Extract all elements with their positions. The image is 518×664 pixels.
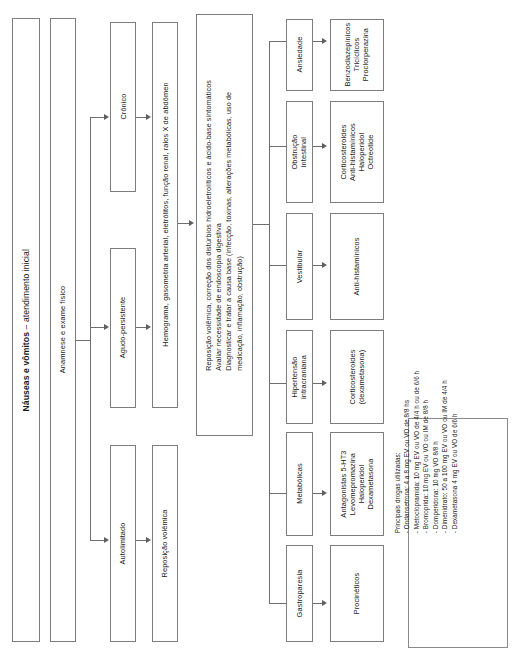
treatment-label-corticosteroides-dexametasona: Corticosteroides (dexametasona) <box>348 350 366 405</box>
connector-anamnese-trunk <box>90 117 91 540</box>
connector-to-gastroparesia <box>269 603 286 604</box>
management-box: Reposição volêmica, correção dos distúrb… <box>196 14 253 436</box>
branch-label-agudo-persistente: Agudo-persistente <box>118 297 127 359</box>
flowchart-canvas: Náuseas e vômitos – atendimento inicial … <box>0 0 518 664</box>
cause-box-vestibular: Vestibular <box>286 213 313 320</box>
cause-box-ansiedade: Ansiedade <box>286 19 313 91</box>
connector-to-ansiedade <box>269 41 286 42</box>
treatment-label-procineticos: Procinéticos <box>352 573 361 614</box>
treatment-label-benzodiazepinicos: Benzodiazepínicos Tricíclicos Proclorper… <box>343 23 370 87</box>
arrowhead-exams-from-agudo <box>146 324 151 330</box>
cause-box-metabolicas: Metabólicas <box>286 432 313 536</box>
arrowhead-cronico <box>104 114 109 120</box>
treatment-label-corticosteroides-anti-histaminicos: Corticosteroides Anti-histamínicos Halop… <box>339 123 375 181</box>
branch-label-autolimitado: Autolimitado <box>118 523 127 565</box>
arrowhead-anti-histaminicos <box>322 262 327 268</box>
treatment-box-corticosteroides-dexametasona: Corticosteroides (dexametasona) <box>330 330 384 424</box>
drug-legend-box: Principais drogas utilizadas: - Ondanset… <box>408 418 508 648</box>
connector-management-out <box>253 224 269 225</box>
anamnese-label: Anamnese e exame físico <box>58 286 67 373</box>
anamnese-box: Anamnese e exame físico <box>50 18 76 642</box>
arrowhead-antagonistas <box>322 490 327 496</box>
exams-box: Hemograma, gasometria arterial, eletróli… <box>152 22 178 408</box>
cause-box-hipertensao-intracraniana: Hipertensão intracraniana <box>286 330 313 424</box>
connector-causes-trunk <box>269 41 270 603</box>
title-text: Náuseas e vômitos – atendimento inicial <box>21 249 31 412</box>
treatment-box-corticosteroides-anti-histaminicos: Corticosteroides Anti-histamínicos Halop… <box>330 101 384 203</box>
arrowhead-management <box>189 220 194 226</box>
arrowhead-reposicao <box>146 537 151 543</box>
treatment-box-reposicao-volemica: Reposição volêmica <box>152 445 178 642</box>
arrowhead-exams-from-cronico <box>146 114 151 120</box>
cause-label-metabolicas: Metabólicas <box>295 464 304 505</box>
cause-label-ansiedade: Ansiedade <box>295 37 304 73</box>
management-text: Reposição volêmica, correção dos distúrb… <box>204 80 245 371</box>
connector-to-vestibular <box>269 265 286 266</box>
arrowhead-agudo <box>104 324 109 330</box>
drug-legend-text: Principais drogas utilizadas: - Ondanset… <box>393 371 459 533</box>
branch-box-cronico: Crônico <box>110 22 136 192</box>
exams-label: Hemograma, gasometria arterial, eletróli… <box>160 83 169 347</box>
cause-label-gastroparesia: Gastroparesia <box>295 570 304 618</box>
cause-label-hipertensao-intracraniana: Hipertensão intracraniana <box>290 355 308 399</box>
connector-to-hipertensao <box>269 383 286 384</box>
title-bold: Náuseas e vômitos <box>21 332 31 412</box>
arrowhead-autolimitado <box>104 537 109 543</box>
connector-anamnese-out <box>76 340 90 341</box>
connector-to-autolimitado <box>90 540 104 541</box>
arrowhead-corticosteroides-dexa <box>322 380 327 386</box>
branch-box-autolimitado: Autolimitado <box>110 445 136 642</box>
arrowhead-benzodiazepinicos <box>322 38 327 44</box>
cause-box-gastroparesia: Gastroparesia <box>286 545 313 642</box>
connector-to-cronico <box>90 117 104 118</box>
treatment-label-antagonistas-5ht3: Antagonistas 5-HT3 Levomepromazina Halop… <box>339 450 375 517</box>
treatment-box-anti-histaminicos: Anti-histamínicos <box>330 213 384 320</box>
branch-box-agudo-persistente: Agudo-persistente <box>110 248 136 408</box>
treatment-label-reposicao-volemica: Reposição volêmica <box>160 510 169 578</box>
cause-label-vestibular: Vestibular <box>295 250 304 283</box>
arrowhead-procineticos <box>322 600 327 606</box>
cause-box-obstrucao-intestinal: Obstrução intestinal <box>286 101 313 203</box>
branch-label-cronico: Crônico <box>118 94 127 120</box>
connector-to-metabolicas <box>269 493 286 494</box>
cause-label-obstrucao-intestinal: Obstrução intestinal <box>290 135 308 170</box>
treatment-box-antagonistas-5ht3: Antagonistas 5-HT3 Levomepromazina Halop… <box>330 432 384 536</box>
treatment-box-benzodiazepinicos: Benzodiazepínicos Tricíclicos Proclorper… <box>330 19 384 91</box>
title-box: Náuseas e vômitos – atendimento inicial <box>12 18 40 642</box>
connector-to-obstrucao <box>269 146 286 147</box>
arrowhead-corticosteroides-anti <box>322 143 327 149</box>
connector-to-agudo <box>90 327 104 328</box>
treatment-box-procineticos: Procinéticos <box>330 545 384 642</box>
title-rest: – atendimento inicial <box>21 249 31 332</box>
treatment-label-anti-histaminicos: Anti-histamínicos <box>352 238 361 296</box>
